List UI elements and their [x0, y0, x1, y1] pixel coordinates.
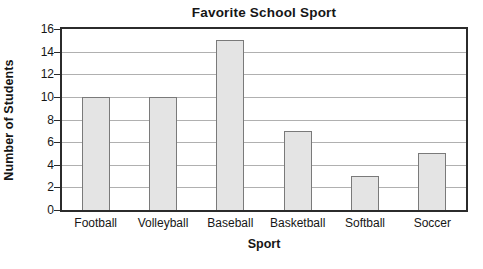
y-axis-title: Number of Students	[0, 27, 18, 212]
gridline-y-10	[62, 97, 466, 98]
gridline-y-2	[62, 187, 466, 188]
plot-area	[60, 27, 468, 212]
gridline-y-12	[62, 74, 466, 75]
y-tick-label-2: 2	[20, 181, 54, 193]
x-axis-tick-labels: FootballVolleyballBaseballBasketballSoft…	[60, 214, 468, 236]
y-axis-title-text: Number of Students	[2, 59, 16, 180]
gridline-y-8	[62, 120, 466, 121]
bar-baseball[interactable]	[216, 40, 244, 210]
gridline-y-6	[62, 142, 466, 143]
plot-inner	[62, 29, 466, 210]
gridline-y-4	[62, 165, 466, 166]
x-tick-label-basketball: Basketball	[264, 214, 331, 232]
bar-volleyball[interactable]	[149, 97, 177, 210]
y-tick-label-16: 16	[20, 23, 54, 35]
bar-basketball[interactable]	[284, 131, 312, 210]
gridline-y-14	[62, 52, 466, 53]
y-tick-label-14: 14	[20, 46, 54, 58]
y-tick-label-12: 12	[20, 68, 54, 80]
y-tick-label-4: 4	[20, 159, 54, 171]
y-tick-label-10: 10	[20, 91, 54, 103]
x-tick-label-soccer: Soccer	[399, 214, 466, 232]
x-tick-label-football: Football	[62, 214, 129, 232]
bar-softball[interactable]	[351, 176, 379, 210]
x-tick-label-volleyball: Volleyball	[129, 214, 196, 232]
y-axis-tick-labels: 0246810121416	[20, 27, 54, 212]
x-tick-label-baseball: Baseball	[197, 214, 264, 232]
y-tick-label-6: 6	[20, 136, 54, 148]
y-tick-label-0: 0	[20, 204, 54, 216]
x-axis-title: Sport	[60, 236, 468, 252]
bar-football[interactable]	[82, 97, 110, 210]
x-tick-label-softball: Softball	[331, 214, 398, 232]
bar-chart-figure: Favorite School Sport Number of Students…	[0, 0, 483, 269]
y-tick-label-8: 8	[20, 114, 54, 126]
bar-soccer[interactable]	[418, 153, 446, 210]
chart-title: Favorite School Sport	[60, 4, 468, 22]
